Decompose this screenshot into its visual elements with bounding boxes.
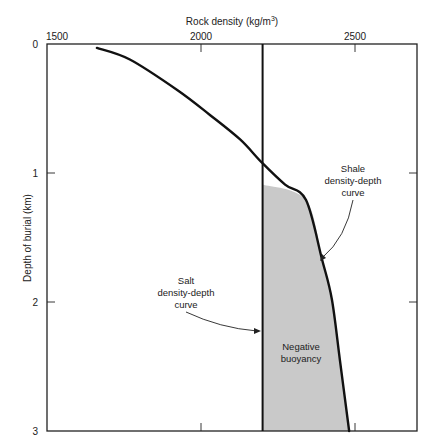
- svg-text:density-depth: density-depth: [157, 287, 214, 298]
- y-tick-label: 0: [32, 39, 38, 50]
- y-axis-ticks: 0123: [32, 39, 417, 437]
- svg-text:curve: curve: [174, 299, 197, 310]
- salt-annotation: Salt density-depth curve: [157, 275, 261, 334]
- arrowhead-icon: [254, 328, 261, 334]
- y-axis-title: Depth of burial (km): [22, 194, 33, 282]
- density-depth-chart: 150020002500 0123 Rock density (kg/m3) D…: [0, 0, 427, 448]
- svg-text:Negative: Negative: [282, 341, 320, 352]
- negative-buoyancy-label: Negative buoyancy: [281, 341, 322, 364]
- x-axis-title: Rock density (kg/m3): [186, 15, 278, 27]
- x-tick-label: 2500: [344, 31, 367, 42]
- shale-annotation: Shale density-depth curve: [320, 163, 382, 261]
- svg-text:Salt: Salt: [178, 275, 195, 286]
- svg-text:density-depth: density-depth: [324, 175, 381, 186]
- y-tick-label: 1: [32, 168, 38, 179]
- negative-buoyancy-region: [263, 185, 350, 431]
- svg-text:curve: curve: [341, 187, 364, 198]
- y-tick-label: 2: [32, 297, 38, 308]
- x-tick-label: 2000: [190, 31, 213, 42]
- plot-frame: [47, 44, 417, 431]
- y-tick-label: 3: [32, 426, 38, 437]
- x-tick-label: 1500: [46, 31, 69, 42]
- svg-text:buoyancy: buoyancy: [281, 353, 322, 364]
- svg-text:Shale: Shale: [341, 163, 365, 174]
